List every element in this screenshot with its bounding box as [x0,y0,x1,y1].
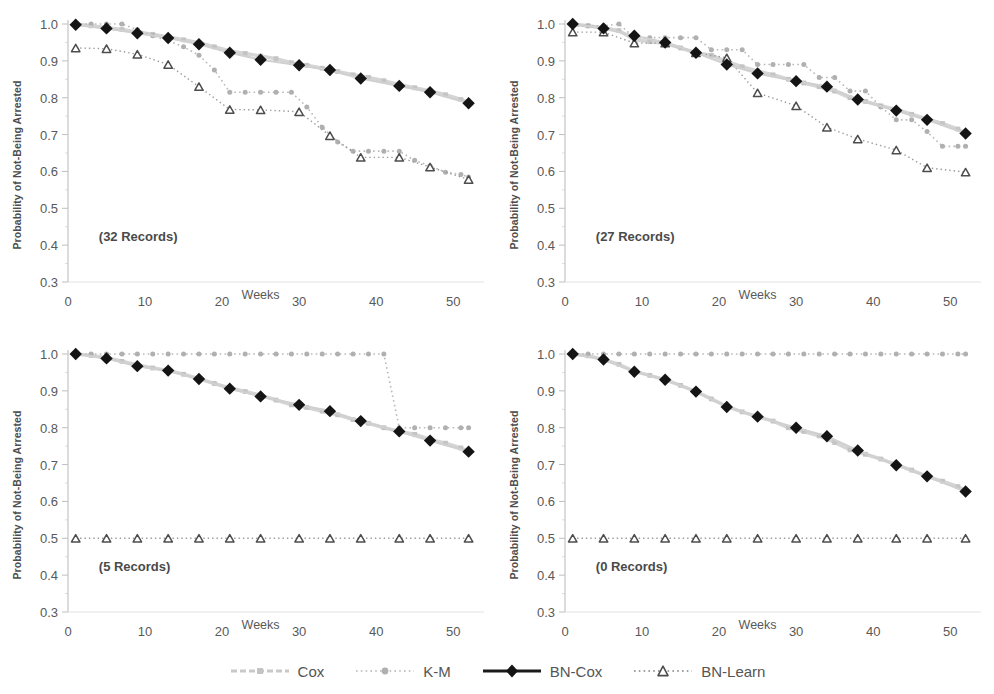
km-marker [863,89,868,94]
km-marker [740,47,745,52]
bn-cox-marker [70,19,82,31]
x-tick-label: 20 [712,294,726,309]
y-tick-label: 1.0 [40,347,58,362]
km-marker [801,62,806,67]
bn-cox-marker [355,415,367,427]
bn-learn-marker [72,535,80,542]
km-marker [258,352,263,357]
y-tick-label: 0.8 [40,421,58,436]
km-marker [196,352,201,357]
bn-learn-marker [357,535,365,542]
y-tick-label: 0.5 [537,201,555,216]
bn-learn-marker [892,146,900,153]
x-tick-label: 30 [292,294,306,309]
bn-cox-marker [659,374,671,386]
bn-cox-marker [890,104,902,116]
bn-cox-marker [293,59,305,71]
km-marker [351,352,356,357]
plot-area: 0.30.40.50.60.70.80.91.001020304050Weeks… [28,344,490,660]
km-marker [466,425,471,430]
km-marker [443,425,448,430]
km-marker [274,352,279,357]
x-tick-label: 40 [369,624,383,639]
bn-cox-marker [790,75,802,87]
bn-learn-marker [256,535,264,542]
records-annotation: (5 Records) [99,559,171,574]
triangle-icon [632,662,694,680]
km-marker [663,352,668,357]
legend-item-bn-cox: BN-Cox [481,662,603,680]
x-axis-label: Weeks [242,618,280,632]
x-tick-label: 0 [64,294,71,309]
x-tick-label: 50 [943,294,957,309]
bn-cox-marker [393,80,405,92]
y-axis-label: Probability of Not-Being Arrested [503,330,525,660]
bn-learn-marker [854,135,862,142]
km-marker [181,352,186,357]
bn-cox-marker [393,425,405,437]
bn-learn-marker [661,535,669,542]
km-marker [274,90,279,95]
y-tick-label: 0.5 [40,531,58,546]
records-annotation: (27 Records) [596,229,675,244]
bn-cox-marker [224,382,236,394]
x-tick-label: 10 [635,624,649,639]
y-axis-label-text: Probability of Not-Being Arrested [508,410,520,579]
km-marker [832,352,837,357]
km-marker [709,352,714,357]
bn-learn-marker [464,176,472,183]
bn-cox-marker [324,64,336,76]
x-tick-label: 20 [712,624,726,639]
y-axis-label: Probability of Not-Being Arrested [6,330,28,660]
bn-learn-marker [164,535,172,542]
legend-label: BN-Cox [550,663,603,680]
km-marker [428,425,433,430]
bn-learn-marker [426,163,434,170]
km-marker [894,352,899,357]
km-marker [709,47,714,52]
legend-label: K-M [423,663,451,680]
bn-cox-marker [193,38,205,50]
bn-learn-marker [823,535,831,542]
plot-area: 0.30.40.50.60.70.80.91.001020304050Weeks… [525,14,987,330]
km-marker [135,352,140,357]
bn-cox-marker [921,470,933,482]
x-axis-label: Weeks [739,618,777,632]
km-marker [909,352,914,357]
km-marker [878,352,883,357]
km-marker [678,35,683,40]
y-tick-label: 0.3 [537,605,555,620]
bn-learn-marker [692,535,700,542]
bn-learn-marker [753,89,761,96]
plot-area: 0.30.40.50.60.70.80.91.001020304050Weeks… [28,14,490,330]
km-marker [894,117,899,122]
bn-learn-marker [102,45,110,52]
bn-cox-marker [628,365,640,377]
chart-panel: Probability of Not-Being Arrested0.30.40… [0,0,497,330]
bn-cox-marker [162,32,174,44]
x-tick-label: 40 [866,294,880,309]
km-marker [397,149,402,154]
series-line [573,24,966,133]
x-tick-label: 20 [215,624,229,639]
y-tick-label: 0.8 [537,421,555,436]
bn-learn-marker [395,154,403,161]
km-marker [320,352,325,357]
series-line [573,24,966,146]
y-axis-label: Probability of Not-Being Arrested [503,0,525,330]
chart-panel: Probability of Not-Being Arrested0.30.40… [497,330,994,660]
km-marker [381,149,386,154]
km-marker [940,352,945,357]
x-tick-label: 20 [215,294,229,309]
km-marker [925,352,930,357]
y-tick-label: 0.6 [537,164,555,179]
km-marker [181,44,186,49]
circle-icon [354,662,416,680]
bn-learn-marker [226,535,234,542]
x-tick-label: 50 [446,294,460,309]
x-tick-label: 40 [369,294,383,309]
series-line [76,24,469,177]
records-annotation: (0 Records) [596,559,668,574]
diamond-icon [481,662,543,680]
bn-learn-marker [599,535,607,542]
